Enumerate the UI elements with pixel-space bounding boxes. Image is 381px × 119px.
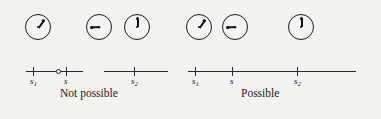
axis-tick-s1 [195, 67, 196, 76]
panel-caption-possible: Possible [241, 88, 279, 100]
axis-tick-s2 [134, 67, 135, 76]
axis-tick-s [232, 67, 233, 76]
axis-label-s-text: s [230, 76, 234, 86]
axis-label-s1-text: s [192, 76, 196, 86]
clock-face-s [86, 14, 112, 40]
axis-label-s1: s1 [30, 77, 37, 86]
axis-label-s2: s2 [131, 77, 138, 86]
open-circle-marker [56, 69, 61, 74]
axis-label-s1-subscript: 1 [34, 80, 37, 87]
axis-tick-s1 [33, 67, 34, 76]
axis-label-s1-subscript: 1 [196, 80, 199, 87]
clock-number-line-figure: s1 s s2 Not possible s1 [0, 0, 381, 119]
axis-tick-s [66, 67, 67, 76]
clock-face-s1 [25, 14, 51, 40]
axis-label-s2: s2 [294, 77, 301, 86]
clock-pivot [98, 26, 101, 29]
panel-caption-not-possible: Not possible [60, 88, 118, 100]
clock-face-s2 [288, 14, 314, 40]
number-line-segment [104, 71, 168, 72]
clock-face-s2 [124, 14, 150, 40]
clock-pivot [136, 26, 139, 29]
axis-label-s2-text: s [294, 76, 298, 86]
axis-label-s1-text: s [30, 76, 34, 86]
clock-hand [199, 19, 206, 28]
clock-face-s1 [186, 14, 212, 40]
number-line-segment [188, 71, 356, 72]
clock-hand [38, 19, 45, 28]
axis-label-s-text: s [64, 76, 68, 86]
axis-label-s2-subscript: 2 [298, 80, 301, 87]
clock-pivot [300, 26, 303, 29]
axis-tick-s2 [297, 67, 298, 76]
number-line-segment [26, 71, 83, 72]
panel-possible: s1 s s2 Possible [190, 0, 381, 119]
axis-label-s1: s1 [192, 77, 199, 86]
axis-label-s: s [64, 77, 68, 86]
clock-face-s [222, 14, 248, 40]
panel-not-possible: s1 s s2 Not possible [0, 0, 190, 119]
axis-label-s2-subscript: 2 [135, 80, 138, 87]
axis-label-s: s [230, 77, 234, 86]
axis-label-s2-text: s [131, 76, 135, 86]
clock-pivot [234, 26, 237, 29]
